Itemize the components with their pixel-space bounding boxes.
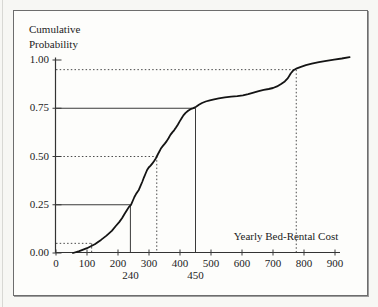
y-tick-label: 0.25 [13, 198, 49, 211]
x-tick-label: 100 [72, 257, 102, 270]
x-tick-label: 600 [227, 257, 257, 270]
fractile-label: 450 [181, 269, 211, 282]
cumulative-curve [73, 57, 350, 253]
x-tick-label: 0 [41, 257, 71, 270]
x-tick-label: 800 [289, 257, 319, 270]
x-tick-label: 900 [320, 257, 350, 270]
y-tick-label: 0.50 [13, 150, 49, 163]
figure-page: Cumulative Probability Yearly Bed-Rental… [0, 0, 378, 307]
fractile-label: 240 [115, 269, 145, 282]
x-tick-label: 700 [258, 257, 288, 270]
y-tick-label: 0.75 [13, 101, 49, 114]
y-tick-label: 1.00 [13, 53, 49, 66]
